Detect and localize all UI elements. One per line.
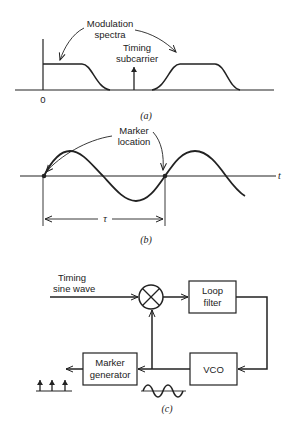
marker-dot-2 <box>163 174 168 179</box>
marker-dot-1 <box>42 174 47 179</box>
timing-label-1: Timing <box>123 42 151 53</box>
loop-filter-label-2: filter <box>204 297 222 308</box>
filter-to-vco-line <box>236 297 267 369</box>
input-label-2: sine wave <box>53 283 95 294</box>
loop-filter-label-1: Loop <box>202 285 223 296</box>
caption-c: (c) <box>161 403 173 415</box>
tau-label: τ <box>103 213 107 224</box>
marker-label-1: Marker <box>119 125 149 136</box>
panel-b: t Marker location τ (b) <box>20 125 281 246</box>
marker-label-2: location <box>118 136 151 147</box>
time-axis-label: t <box>278 170 281 181</box>
multiplier <box>139 285 163 309</box>
panel-a: Modulation spectra Timing subcarrier 0 (… <box>15 18 274 122</box>
modulation-label-1: Modulation <box>87 18 133 29</box>
shifted-spectrum <box>152 64 240 90</box>
timing-label-2: subcarrier <box>116 53 158 64</box>
input-label-1: Timing <box>58 272 86 283</box>
origin-label: 0 <box>40 94 45 105</box>
caption-b: (b) <box>140 234 152 246</box>
modulation-label-2: spectra <box>94 29 126 40</box>
marker-pointer-right <box>153 132 163 170</box>
spectra-pointer-left <box>60 28 84 60</box>
pulse-train-icon <box>36 380 72 391</box>
vco-label: VCO <box>203 364 224 375</box>
panel-c: Timing sine wave Loop filter VCO Marker … <box>36 272 267 415</box>
caption-a: (a) <box>140 110 152 122</box>
baseband-spectrum <box>43 64 110 90</box>
sine-wave-icon <box>141 385 186 397</box>
figure: Modulation spectra Timing subcarrier 0 (… <box>0 0 293 429</box>
marker-generator-label-1: Marker <box>95 357 125 368</box>
marker-generator-label-2: generator <box>90 369 131 380</box>
